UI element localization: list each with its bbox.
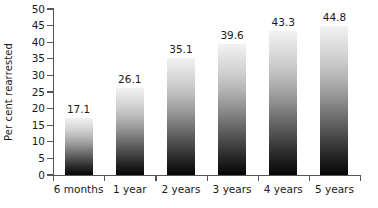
x-axis-tick <box>309 175 310 181</box>
bar <box>116 88 144 175</box>
x-axis-tick <box>53 175 54 181</box>
bar-value-label: 17.1 <box>49 104 109 115</box>
y-axis-tick-label: 30 <box>5 70 45 81</box>
x-axis-tick <box>258 175 259 181</box>
x-axis-tick <box>104 175 105 181</box>
x-axis-tick <box>155 175 156 181</box>
y-axis-tick-label: 35 <box>5 53 45 64</box>
bar <box>269 31 297 175</box>
y-axis-tick-label: 50 <box>5 4 45 15</box>
y-axis-tick-label: 0 <box>5 170 45 181</box>
bar-chart: Per cent rearrested 05101520253035404550… <box>0 0 378 208</box>
bar-value-label: 39.6 <box>202 30 262 41</box>
y-axis-tick-label: 45 <box>5 20 45 31</box>
bar <box>65 118 93 175</box>
bar-value-label: 35.1 <box>151 44 211 55</box>
bar-value-label: 44.8 <box>304 12 364 23</box>
bar-value-label: 26.1 <box>100 74 160 85</box>
y-axis-tick-label: 25 <box>5 87 45 98</box>
y-axis-tick-label: 20 <box>5 103 45 114</box>
x-axis-tick <box>360 175 361 181</box>
x-axis-category-label: 5 years <box>299 184 369 195</box>
bar <box>167 58 195 175</box>
y-axis-tick-label: 15 <box>5 120 45 131</box>
y-axis-tick-label: 5 <box>5 153 45 164</box>
bar <box>320 26 348 175</box>
y-axis-tick-label: 10 <box>5 136 45 147</box>
bar <box>218 44 246 175</box>
y-axis-tick-label: 40 <box>5 37 45 48</box>
x-axis-tick <box>207 175 208 181</box>
